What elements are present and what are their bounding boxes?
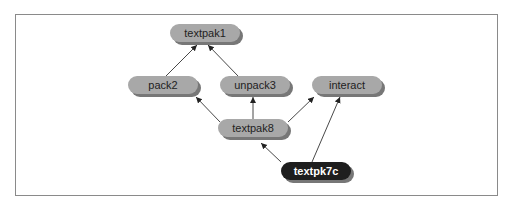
node-unpack3: unpack3 [220, 76, 293, 97]
edge-textpk7c-to-textpak8 [261, 143, 281, 162]
node-label: interact [329, 79, 365, 91]
edge-textpak8-to-pack2 [196, 97, 220, 122]
edge-textpk7c-to-interact [312, 97, 340, 162]
node-label: unpack3 [234, 79, 276, 91]
node-label: textpak8 [232, 122, 274, 134]
node-textpak1: textpak1 [170, 24, 243, 45]
node-textpak8: textpak8 [218, 119, 291, 140]
node-interact: interact [312, 76, 385, 97]
dependency-graph: textpak1pack2unpack3interacttextpak8text… [0, 0, 510, 205]
edge-textpak8-to-interact [288, 97, 314, 122]
edge-pack2-to-textpak1 [166, 45, 197, 76]
node-textpk7c: textpk7c [281, 162, 354, 183]
node-label: pack2 [148, 79, 177, 91]
edge-unpack3-to-textpak1 [208, 45, 238, 76]
node-label: textpk7c [294, 165, 339, 177]
node-pack2: pack2 [128, 76, 201, 97]
node-label: textpak1 [184, 27, 226, 39]
